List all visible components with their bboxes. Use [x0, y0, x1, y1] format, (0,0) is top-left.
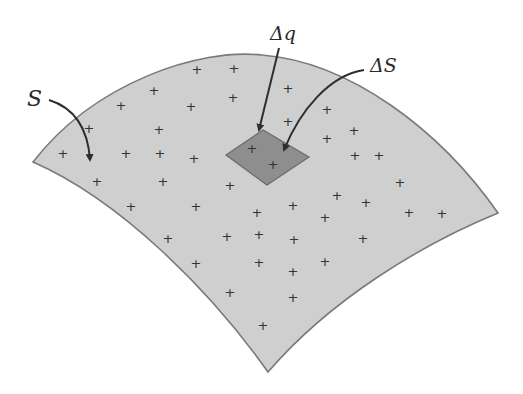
charge-mark: +	[191, 256, 202, 271]
charge-mark: +	[229, 61, 240, 76]
charge-mark: +	[254, 227, 265, 242]
charge-mark: +	[320, 254, 331, 269]
charge-mark: +	[358, 231, 369, 246]
surface-diagram: ++++++++++++++++++++++++++++++++++++++++…	[0, 0, 523, 394]
charge-mark: +	[191, 199, 202, 214]
charge-mark: +	[268, 157, 279, 172]
charge-mark: +	[320, 210, 331, 225]
charge-mark: +	[289, 232, 300, 247]
charge-mark: +	[228, 90, 239, 105]
charge-mark: +	[222, 229, 233, 244]
charge-mark: +	[404, 205, 415, 220]
charge-mark: +	[395, 175, 406, 190]
charge-mark: +	[247, 141, 258, 156]
charge-mark: +	[192, 62, 203, 77]
charge-mark: +	[225, 285, 236, 300]
charge-mark: +	[350, 148, 361, 163]
charge-mark: +	[155, 146, 166, 161]
charge-mark: +	[116, 98, 127, 113]
charge-mark: +	[361, 195, 372, 210]
charge-mark: +	[437, 206, 448, 221]
charge-mark: +	[283, 114, 294, 129]
charge-mark: +	[154, 122, 165, 137]
charge-mark: +	[158, 174, 169, 189]
charge-mark: +	[252, 205, 263, 220]
charge-mark: +	[92, 174, 103, 189]
charge-mark: +	[322, 131, 333, 146]
charge-mark: +	[186, 99, 197, 114]
label-area-element: ΔS	[370, 54, 397, 76]
charge-mark: +	[149, 83, 160, 98]
charge-mark: +	[163, 231, 174, 246]
charge-mark: +	[254, 255, 265, 270]
charge-mark: +	[288, 264, 299, 279]
charge-mark: +	[288, 290, 299, 305]
charge-mark: +	[121, 146, 132, 161]
charge-mark: +	[58, 146, 69, 161]
charge-mark: +	[283, 81, 294, 96]
charge-mark: +	[332, 188, 343, 203]
charge-mark: +	[126, 199, 137, 214]
label-charge-element: Δq	[270, 22, 296, 44]
charge-mark: +	[349, 123, 360, 138]
charge-mark: +	[258, 318, 269, 333]
label-surface-s: S	[27, 86, 42, 111]
charge-mark: +	[225, 178, 236, 193]
charge-mark: +	[189, 151, 200, 166]
charge-mark: +	[322, 102, 333, 117]
charge-mark: +	[288, 198, 299, 213]
charge-mark: +	[374, 148, 385, 163]
